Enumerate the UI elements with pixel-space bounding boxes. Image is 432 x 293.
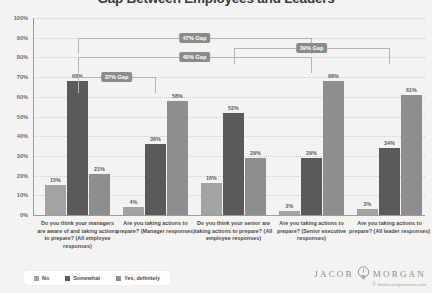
- y-axis-line: [33, 18, 34, 216]
- bar: 2%: [279, 211, 300, 215]
- plot-area: 15%68%21%4%36%58%16%52%29%2%29%68%3%34%6…: [33, 18, 425, 216]
- bar-value-label: 2%: [286, 203, 294, 209]
- bar: 3%: [357, 209, 378, 215]
- y-axis-tick-label: 70%: [0, 74, 28, 80]
- y-axis-tick-label: 40%: [0, 133, 28, 139]
- gap-label: 37% Gap: [101, 72, 133, 82]
- brand-last-name: MORGAN: [373, 269, 426, 279]
- bar: 29%: [301, 158, 322, 215]
- y-axis-tick-label: 10%: [0, 192, 28, 198]
- bar-value-label: 58%: [172, 93, 183, 99]
- y-axis-tick-label: 30%: [0, 153, 28, 159]
- copyright-icon: ©: [372, 282, 375, 287]
- y-axis-tick-label: 50%: [0, 114, 28, 120]
- bar: 21%: [89, 174, 110, 215]
- bar-value-label: 29%: [250, 150, 261, 156]
- bar-value-label: 3%: [364, 201, 372, 207]
- chart-root: Gap Between Employees and Leaders 100%90…: [0, 0, 432, 293]
- brand-url-text: thefutureorganization.com: [378, 282, 426, 287]
- bar: 61%: [401, 95, 422, 215]
- legend-item[interactable]: No: [34, 275, 49, 281]
- lightbulb-icon: [357, 266, 370, 281]
- legend-item[interactable]: Somewhat: [65, 275, 100, 281]
- bar-value-label: 36%: [150, 136, 161, 142]
- x-axis-line: [33, 215, 425, 216]
- brand-row: JACOB MORGAN: [314, 266, 426, 281]
- legend-label: No: [42, 275, 49, 281]
- x-axis-category-label: Are you taking actions to prepare? (Mana…: [115, 220, 197, 235]
- bar-value-label: 34%: [384, 140, 395, 146]
- bar: 52%: [223, 113, 244, 215]
- y-axis-tick-label: 100%: [0, 15, 28, 21]
- y-axis-tick-label: 80%: [0, 54, 28, 60]
- x-axis-category-label: Are you taking actions to prepare? (All …: [349, 220, 431, 235]
- bar-value-label: 52%: [228, 105, 239, 111]
- brand-first-name: JACOB: [314, 269, 354, 279]
- gap-label: 40% Gap: [179, 52, 211, 62]
- bar: 68%: [67, 81, 88, 215]
- bar: 4%: [123, 207, 144, 215]
- legend-label: Somewhat: [73, 275, 100, 281]
- bar-value-label: 68%: [328, 73, 339, 79]
- branding: JACOB MORGAN © thefutureorganization.com: [314, 266, 426, 287]
- gap-label: 39% Gap: [296, 43, 328, 53]
- bar-value-label: 4%: [130, 199, 138, 205]
- bar: 15%: [45, 185, 66, 215]
- legend-item[interactable]: Yes, definitely: [116, 275, 160, 281]
- bar-value-label: 15%: [50, 177, 61, 183]
- y-axis-tick-label: 20%: [0, 173, 28, 179]
- bar-value-label: 61%: [406, 87, 417, 93]
- brand-url-row: © thefutureorganization.com: [314, 282, 426, 287]
- bar: 58%: [167, 101, 188, 215]
- x-axis-category-label: Are you taking actions to prepare? (Seni…: [271, 220, 353, 243]
- bar-value-label: 21%: [94, 166, 105, 172]
- bar: 36%: [145, 144, 166, 215]
- legend-swatch: [34, 276, 39, 281]
- bar: 16%: [201, 183, 222, 215]
- chart-title: Gap Between Employees and Leaders: [0, 0, 432, 6]
- y-axis-tick-label: 60%: [0, 94, 28, 100]
- bar: 34%: [379, 148, 400, 215]
- bar-value-label: 16%: [206, 175, 217, 181]
- bar: 29%: [245, 158, 266, 215]
- y-axis-tick-label: 90%: [0, 35, 28, 41]
- legend-swatch: [116, 276, 121, 281]
- x-axis-category-label: Do you think your managers are aware of …: [37, 220, 119, 250]
- y-axis-tick-label: 0%: [0, 212, 28, 218]
- x-axis-category-label: Do you think your senior are taking acti…: [193, 220, 275, 243]
- legend-label: Yes, definitely: [124, 275, 160, 281]
- bar: 68%: [323, 81, 344, 215]
- bar-value-label: 29%: [306, 150, 317, 156]
- legend-swatch: [65, 276, 70, 281]
- gap-label: 47% Gap: [179, 33, 211, 43]
- chart-legend: NoSomewhatYes, definitely: [24, 271, 170, 285]
